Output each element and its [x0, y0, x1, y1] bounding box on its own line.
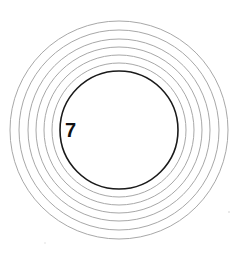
speck [44, 242, 46, 244]
ring-3 [36, 47, 202, 213]
outer-rings [10, 21, 228, 239]
concentric-circles-figure: 7 [0, 0, 244, 260]
ring-5 [19, 30, 219, 230]
speck [228, 211, 230, 213]
ring-6 [10, 21, 228, 239]
ring-4 [28, 39, 210, 221]
main-circle [60, 71, 178, 189]
number-label: 7 [65, 119, 76, 141]
